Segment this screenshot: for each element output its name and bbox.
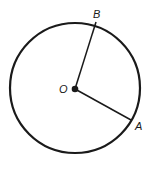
label-o: O bbox=[59, 83, 68, 95]
label-a: A bbox=[134, 120, 142, 132]
center-point-o bbox=[72, 86, 79, 93]
radius-ob bbox=[75, 22, 96, 89]
label-b: B bbox=[93, 8, 100, 20]
radius-oa bbox=[75, 89, 131, 120]
circle-diagram: O B A bbox=[0, 0, 158, 169]
